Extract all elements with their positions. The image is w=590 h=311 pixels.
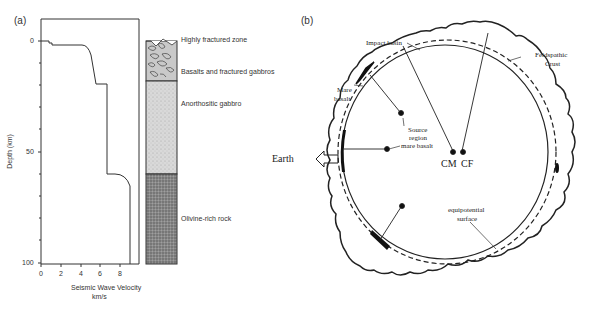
x-axis-unit: km/s bbox=[92, 293, 107, 300]
mare-patch-right bbox=[555, 163, 559, 173]
moon-cross-section bbox=[316, 21, 575, 275]
label-region: region bbox=[409, 134, 427, 142]
x-tick-0: 0 bbox=[39, 270, 43, 277]
label-source: Source bbox=[408, 126, 427, 134]
layer-label-anorthositic: Anorthositic gabbro bbox=[181, 100, 241, 107]
y-axis-label: Depth (km) bbox=[6, 134, 13, 169]
layer-label-fractured: Highly fractured zone bbox=[181, 36, 247, 43]
label-mare: Mare bbox=[337, 86, 352, 94]
label-mare-basalt: mare basalt bbox=[401, 142, 433, 150]
label-feldspathic: Feldspathic bbox=[535, 51, 567, 59]
label-surface: surface bbox=[457, 215, 477, 223]
y-tick-0: 0 bbox=[30, 37, 34, 44]
layer-label-basalts: Basalts and fractured gabbros bbox=[181, 68, 274, 75]
label-equipotential: equipotential bbox=[448, 206, 485, 214]
x-tick-8: 8 bbox=[118, 270, 122, 277]
label-crust: Crust bbox=[545, 60, 560, 68]
velocity-plot bbox=[38, 19, 139, 267]
layer-label-olivine: Olivine-rich rock bbox=[181, 215, 231, 222]
label-earth: Earth bbox=[272, 153, 294, 164]
x-tick-4: 4 bbox=[79, 270, 83, 277]
y-tick-50: 50 bbox=[26, 148, 34, 155]
mare-patch-left bbox=[341, 130, 346, 172]
mantle-circle bbox=[342, 45, 548, 259]
x-tick-2: 2 bbox=[59, 270, 63, 277]
label-cf: CF bbox=[461, 158, 473, 169]
y-tick-100: 100 bbox=[22, 259, 34, 266]
label-cm: CM bbox=[441, 158, 457, 169]
crust-outline bbox=[327, 21, 575, 275]
lithology-column bbox=[146, 39, 177, 264]
label-impact-basin: Impact basin bbox=[366, 39, 402, 47]
diagram-canvas bbox=[0, 0, 590, 311]
x-axis-label: Seismic Wave Velocity bbox=[71, 284, 141, 291]
mare-patch-upper bbox=[356, 62, 374, 84]
velocity-curve bbox=[41, 41, 130, 264]
label-basalt: basalt bbox=[334, 95, 350, 103]
panel-b-tag: (b) bbox=[301, 15, 313, 26]
equipotential-surface bbox=[338, 40, 556, 264]
x-tick-6: 6 bbox=[98, 270, 102, 277]
